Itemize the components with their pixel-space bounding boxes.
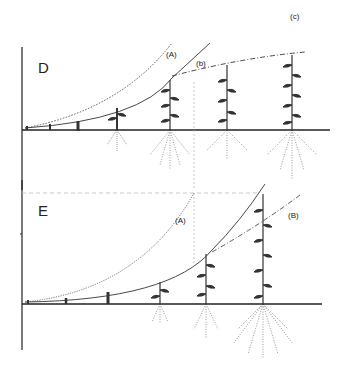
curve-b-dashed-e: [212, 195, 300, 252]
curve-label-a-d: (A): [166, 50, 177, 59]
curve-label-b-d: (b): [196, 59, 206, 68]
plant-e-5: [194, 254, 218, 339]
panel-d: [22, 43, 330, 190]
plant-d-6: [207, 65, 247, 160]
plant-d-7: [267, 55, 317, 180]
panel-e: [20, 180, 322, 359]
curve-a-d: [25, 43, 172, 128]
curve-a-e: [25, 193, 194, 302]
figure-label: (c): [290, 12, 299, 21]
panel-letter-e: E: [38, 202, 48, 219]
curve-plateau-d: [172, 52, 305, 76]
plant-e-6: [233, 194, 293, 359]
curve-label-b-e: (B): [288, 211, 299, 220]
curve-label-a-e: (A): [175, 216, 186, 225]
panel-letter-d: D: [38, 59, 49, 76]
plant-e-4: [151, 282, 169, 324]
curve-b-e: [25, 184, 265, 302]
